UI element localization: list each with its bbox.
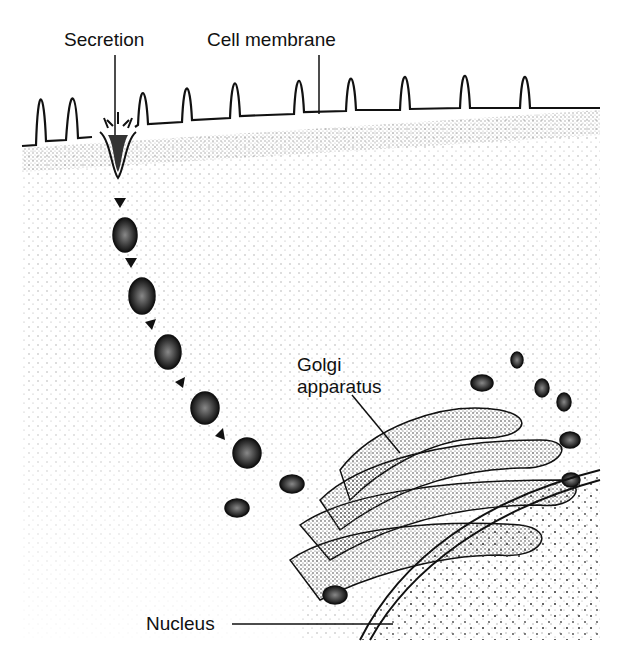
label-golgi-line2: apparatus bbox=[297, 377, 382, 396]
label-secretion: Secretion bbox=[64, 30, 144, 49]
label-cell-membrane: Cell membrane bbox=[207, 30, 336, 49]
label-golgi-line1: Golgi bbox=[297, 355, 341, 374]
cell-secretion-diagram bbox=[0, 0, 636, 665]
label-nucleus: Nucleus bbox=[146, 614, 215, 633]
